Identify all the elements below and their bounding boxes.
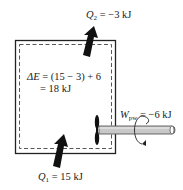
paddle-wheel-icon bbox=[95, 115, 99, 145]
energy-change-line1: ΔE = (15 − 3) + 6 bbox=[27, 72, 101, 83]
heat-in-label: Q1 = 15 kJ bbox=[38, 172, 83, 184]
shaft bbox=[99, 126, 175, 134]
energy-change-line2: = 18 kJ bbox=[40, 84, 71, 95]
heat-out-label: Q2 = −3 kJ bbox=[86, 10, 131, 22]
heat-out-arrow bbox=[83, 26, 98, 57]
work-label: Wpw = −6 kJ bbox=[120, 110, 172, 122]
diagram-canvas bbox=[0, 0, 183, 190]
heat-in-arrow bbox=[53, 134, 68, 168]
system-outer-boundary bbox=[16, 41, 116, 154]
